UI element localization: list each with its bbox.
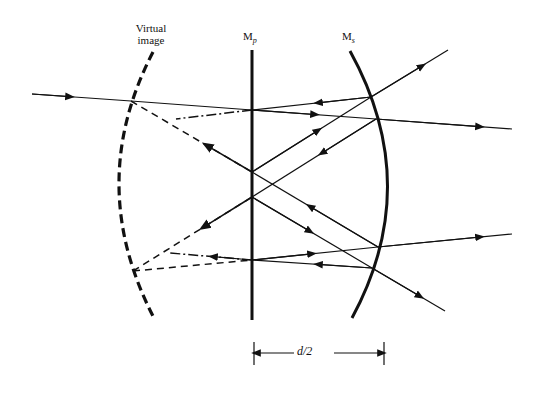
separation-label: d/2 [294,345,315,357]
plane-mirror-label-main: M [243,30,253,42]
spherical-mirror-label-sub: s [352,36,355,45]
virtual-ray-arrows [204,146,252,227]
dimension-d-half [254,342,384,365]
virtual-rays [131,101,252,271]
plane-mirror-label: Mp [243,30,257,47]
virtual-image-label-line2: image [120,34,182,46]
rays [32,50,512,311]
virtual-image-surface [119,52,155,320]
spherical-mirror-label: Ms [342,30,355,47]
plane-mirror-label-sub: p [253,36,257,45]
spherical-mirror-label-main: M [342,30,352,42]
virtual-image-label-line1: Virtual [120,22,182,34]
virtual-image-label: Virtual image [120,22,182,46]
dash-dot-rays [170,110,252,260]
dash-dot-arrow [213,257,252,260]
ray-diagram [0,0,540,396]
